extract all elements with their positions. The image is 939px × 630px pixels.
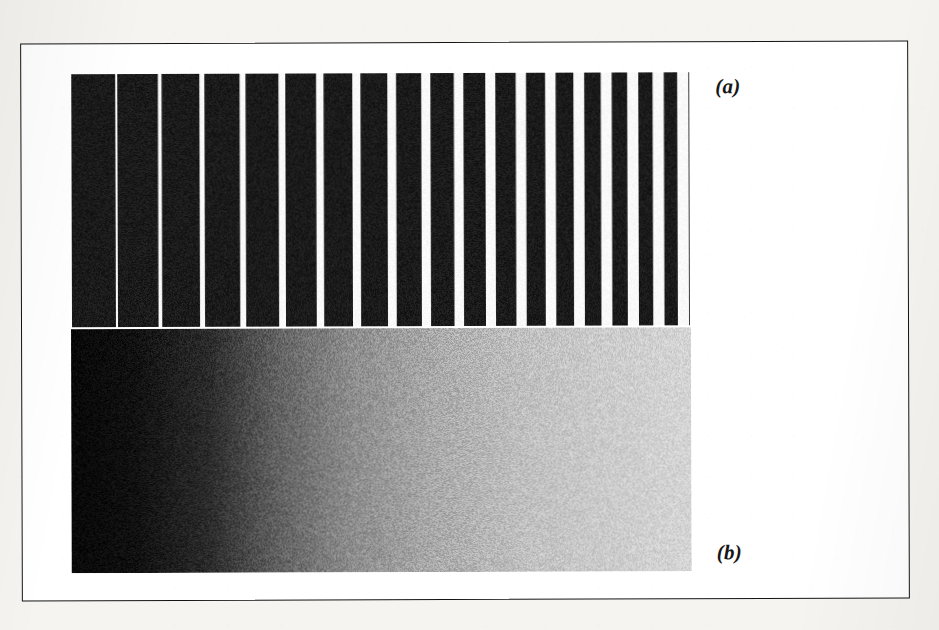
figure-frame-inner: (a) (b) <box>21 42 909 601</box>
panel-a-grating <box>71 72 690 327</box>
panel-b-ramp <box>71 327 692 573</box>
panel-a-label: (a) <box>715 74 740 99</box>
figure-frame: (a) (b) <box>20 41 910 602</box>
panel-b-label: (b) <box>717 540 742 565</box>
luminance-ramp-canvas <box>71 327 692 573</box>
figure-page: (a) (b) <box>0 0 939 630</box>
square-wave-grating-canvas <box>71 72 690 327</box>
